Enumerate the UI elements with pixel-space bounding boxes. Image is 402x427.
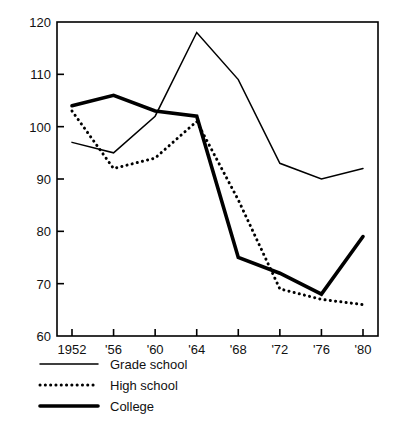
plot-frame bbox=[57, 22, 378, 336]
x-tick-label-1972: '72 bbox=[271, 342, 288, 357]
y-tick-label-70: 70 bbox=[37, 277, 51, 292]
data-series-layer bbox=[72, 32, 363, 304]
line-chart: 12011010090807060 1952'56'60'64'68'72'76… bbox=[0, 0, 402, 427]
y-tick-label-80: 80 bbox=[37, 224, 51, 239]
y-tick-label-90: 90 bbox=[37, 172, 51, 187]
series-line-high-school bbox=[72, 111, 363, 305]
x-tick-label-1976: '76 bbox=[313, 342, 330, 357]
chart-legend: Grade schoolHigh schoolCollege bbox=[40, 357, 187, 414]
x-tick-label-1968: '68 bbox=[230, 342, 247, 357]
y-axis-ticks bbox=[57, 74, 64, 283]
legend-label-college: College bbox=[110, 399, 154, 414]
x-axis-tick-labels: 1952'56'60'64'68'72'76'80 bbox=[58, 342, 372, 357]
x-tick-label-1960: '60 bbox=[147, 342, 164, 357]
y-tick-label-60: 60 bbox=[37, 329, 51, 344]
plot-area-border bbox=[57, 22, 378, 336]
x-axis-ticks bbox=[72, 329, 363, 336]
chart-page: 12011010090807060 1952'56'60'64'68'72'76… bbox=[0, 0, 402, 427]
x-tick-label-1952: 1952 bbox=[58, 342, 87, 357]
x-tick-label-1956: '56 bbox=[105, 342, 122, 357]
x-tick-label-1980: '80 bbox=[355, 342, 372, 357]
x-tick-label-1964: '64 bbox=[188, 342, 205, 357]
y-tick-label-120: 120 bbox=[29, 15, 51, 30]
y-tick-label-100: 100 bbox=[29, 120, 51, 135]
series-line-college bbox=[72, 95, 363, 294]
legend-label-grade-school: Grade school bbox=[110, 357, 187, 372]
y-tick-label-110: 110 bbox=[30, 67, 51, 82]
y-axis-tick-labels: 12011010090807060 bbox=[29, 15, 51, 344]
series-line-grade-school bbox=[72, 32, 363, 179]
legend-label-high-school: High school bbox=[110, 378, 178, 393]
